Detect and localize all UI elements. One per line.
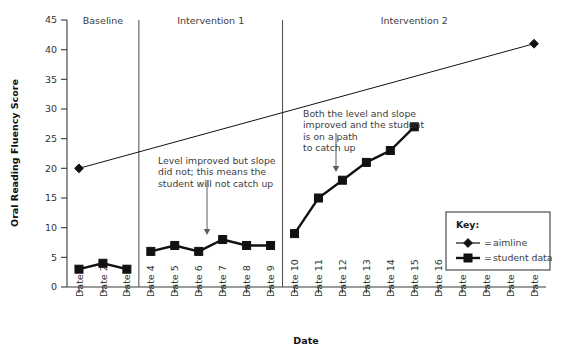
student-data-marker xyxy=(219,236,227,244)
x-tick-label: Date 11 xyxy=(313,259,324,297)
student-data-series xyxy=(75,123,418,273)
legend-separator: = xyxy=(484,252,492,263)
student-data-marker xyxy=(75,265,83,273)
annotation-arrow-head xyxy=(333,166,339,172)
x-tick-label: Date 13 xyxy=(361,259,372,297)
student-data-marker xyxy=(314,194,322,202)
legend-entry-label: aimline xyxy=(493,237,527,248)
student-data-marker xyxy=(123,265,131,273)
annotations-group: Level improved but slopedid not; this me… xyxy=(158,108,424,235)
phase-label: Intervention 1 xyxy=(177,15,244,26)
y-tick-label: 20 xyxy=(45,163,57,174)
student-data-marker xyxy=(195,247,203,255)
student-data-marker xyxy=(362,158,370,166)
y-tick-label: 45 xyxy=(45,14,57,25)
annotation-line: Both the level and slope xyxy=(303,108,416,119)
annotation-line: student will not catch up xyxy=(158,178,273,189)
phase-label: Baseline xyxy=(83,15,123,26)
aimline-marker xyxy=(530,39,539,48)
student-data-path xyxy=(151,240,271,252)
annotation-line: is on a path xyxy=(303,131,358,142)
x-tick-label: Date 2 xyxy=(98,265,109,297)
x-tick-label: Date 5 xyxy=(169,265,180,297)
x-tick-label: Date 9 xyxy=(265,265,276,297)
student-data-marker xyxy=(386,147,394,155)
x-tick-label: Date 8 xyxy=(241,265,252,297)
legend-title: Key: xyxy=(456,219,479,230)
y-tick-label: 35 xyxy=(45,74,57,85)
y-tick-label: 0 xyxy=(51,281,57,292)
student-data-marker xyxy=(291,230,299,238)
student-data-marker xyxy=(267,241,275,249)
annotation-line: did not; this means the xyxy=(158,166,266,177)
student-data-marker xyxy=(338,176,346,184)
annotation-line: to catch up xyxy=(303,142,356,153)
student-data-marker xyxy=(147,247,155,255)
phase-label: Intervention 2 xyxy=(381,15,448,26)
x-tick-label: Date 6 xyxy=(193,265,204,297)
x-tick-label: Date 16 xyxy=(433,259,444,297)
y-tick-label: 40 xyxy=(45,44,57,55)
aimline-marker xyxy=(75,164,84,173)
annotation-arrow-head xyxy=(204,229,210,235)
y-tick-label: 10 xyxy=(45,222,57,233)
chart-svg: 051015202530354045 Date 1Date 2Date 3Dat… xyxy=(0,0,576,352)
y-tick-label: 5 xyxy=(51,252,57,263)
student-data-marker xyxy=(99,259,107,267)
oral-reading-fluency-chart: 051015202530354045 Date 1Date 2Date 3Dat… xyxy=(0,0,576,352)
annotation-line: Level improved but slope xyxy=(158,155,276,166)
x-tick-label: Date 7 xyxy=(217,265,228,297)
legend-separator: = xyxy=(484,237,492,248)
x-tick-label: Date 15 xyxy=(409,259,420,297)
student-data-marker xyxy=(171,241,179,249)
legend-entry-label: student data xyxy=(493,252,552,263)
y-tick-label: 25 xyxy=(45,133,57,144)
x-tick-label: Date 10 xyxy=(289,259,300,297)
x-tick-label: Date 4 xyxy=(145,265,156,297)
y-tick-label: 30 xyxy=(45,103,57,114)
y-axis-title: Oral Reading Fluency Score xyxy=(9,79,20,227)
y-tick-group: 051015202530354045 xyxy=(45,14,67,292)
chart-legend: Key:=aimline=student data xyxy=(446,212,552,270)
x-tick-label: Date 12 xyxy=(337,259,348,297)
annotation-line: improved and the student xyxy=(303,119,424,130)
x-tick-label: Date 14 xyxy=(385,259,396,297)
y-tick-label: 15 xyxy=(45,192,57,203)
x-axis-title: Date xyxy=(293,335,318,346)
student-data-marker xyxy=(243,241,251,249)
legend-square-icon xyxy=(464,254,472,262)
